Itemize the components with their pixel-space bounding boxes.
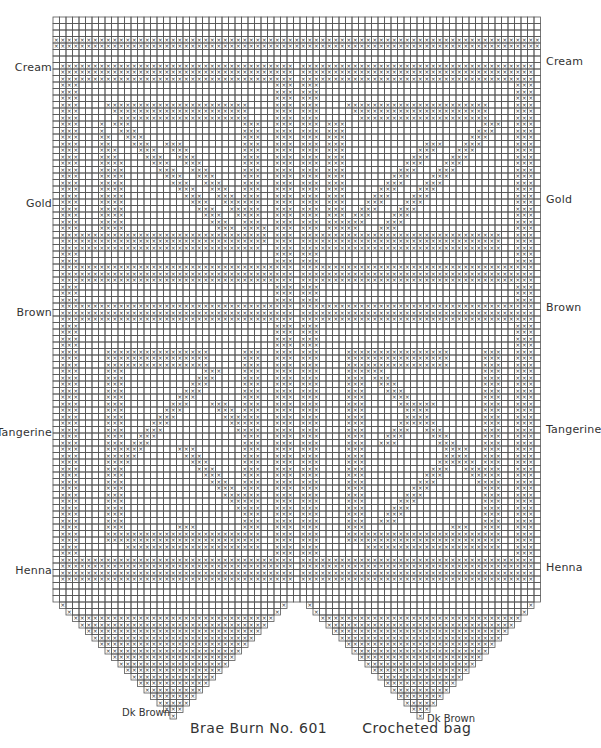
svg-text:×: × — [177, 705, 182, 712]
svg-text:×: × — [229, 653, 234, 660]
svg-text:×: × — [132, 75, 137, 82]
svg-text:×: × — [418, 575, 423, 582]
svg-text:×: × — [236, 276, 241, 283]
svg-text:×: × — [398, 432, 403, 439]
svg-text:×: × — [372, 315, 377, 322]
svg-text:×: × — [184, 159, 189, 166]
svg-text:×: × — [242, 75, 247, 82]
svg-text:×: × — [171, 361, 176, 368]
svg-text:×: × — [158, 426, 163, 433]
svg-text:×: × — [392, 543, 397, 550]
svg-text:×: × — [411, 276, 416, 283]
svg-text:×: × — [470, 276, 475, 283]
svg-text:×: × — [496, 315, 501, 322]
svg-text:×: × — [340, 244, 345, 251]
svg-text:×: × — [93, 276, 98, 283]
svg-text:×: × — [203, 114, 208, 121]
svg-text:×: × — [216, 114, 221, 121]
svg-text:×: × — [210, 218, 215, 225]
svg-text:×: × — [99, 42, 104, 49]
svg-text:×: × — [138, 42, 143, 49]
svg-text:×: × — [470, 75, 475, 82]
svg-text:×: × — [424, 75, 429, 82]
svg-text:×: × — [249, 42, 254, 49]
svg-text:×: × — [489, 276, 494, 283]
svg-text:×: × — [145, 361, 150, 368]
svg-text:×: × — [307, 575, 312, 582]
svg-text:×: × — [80, 575, 85, 582]
svg-text:×: × — [450, 42, 455, 49]
svg-text:×: × — [177, 75, 182, 82]
svg-text:×: × — [483, 133, 488, 140]
svg-text:×: × — [418, 276, 423, 283]
svg-text:×: × — [392, 42, 397, 49]
svg-text:×: × — [418, 315, 423, 322]
svg-text:×: × — [262, 75, 267, 82]
svg-text:×: × — [236, 315, 241, 322]
svg-text:×: × — [73, 575, 78, 582]
svg-text:×: × — [424, 114, 429, 121]
svg-text:×: × — [216, 42, 221, 49]
svg-text:×: × — [112, 575, 117, 582]
svg-text:×: × — [502, 42, 507, 49]
svg-text:×: × — [359, 42, 364, 49]
svg-text:×: × — [346, 276, 351, 283]
svg-text:×: × — [138, 146, 143, 153]
svg-text:×: × — [463, 114, 468, 121]
svg-text:×: × — [197, 315, 202, 322]
svg-text:×: × — [379, 42, 384, 49]
svg-text:×: × — [119, 244, 124, 251]
svg-text:×: × — [216, 276, 221, 283]
svg-text:×: × — [379, 198, 384, 205]
svg-text:×: × — [346, 536, 351, 543]
svg-text:×: × — [301, 575, 306, 582]
svg-text:×: × — [86, 75, 91, 82]
svg-text:×: × — [294, 42, 299, 49]
svg-text:×: × — [418, 198, 423, 205]
svg-text:×: × — [164, 575, 169, 582]
svg-text:×: × — [184, 244, 189, 251]
svg-text:×: × — [457, 575, 462, 582]
svg-text:×: × — [158, 575, 163, 582]
svg-text:×: × — [197, 465, 202, 472]
svg-text:×: × — [405, 211, 410, 218]
svg-text:×: × — [424, 42, 429, 49]
svg-text:×: × — [463, 153, 468, 160]
svg-text:×: × — [86, 42, 91, 49]
svg-text:×: × — [372, 205, 377, 212]
svg-text:×: × — [340, 634, 345, 641]
svg-text:×: × — [483, 276, 488, 283]
svg-text:×: × — [197, 205, 202, 212]
svg-text:×: × — [418, 114, 423, 121]
svg-text:×: × — [184, 452, 189, 459]
svg-text:×: × — [106, 101, 111, 108]
svg-text:×: × — [223, 543, 228, 550]
svg-text:×: × — [476, 244, 481, 251]
svg-text:×: × — [379, 380, 384, 387]
svg-text:×: × — [184, 315, 189, 322]
svg-text:×: × — [138, 543, 143, 550]
svg-text:×: × — [320, 315, 325, 322]
svg-text:×: × — [112, 42, 117, 49]
svg-text:×: × — [515, 575, 520, 582]
svg-text:×: × — [359, 218, 364, 225]
color-label-tangerine: Tangerine — [0, 426, 52, 439]
svg-text:×: × — [158, 315, 163, 322]
svg-text:×: × — [411, 114, 416, 121]
svg-text:×: × — [457, 276, 462, 283]
svg-text:×: × — [60, 575, 65, 582]
svg-text:×: × — [203, 42, 208, 49]
svg-text:×: × — [353, 107, 358, 114]
svg-text:×: × — [158, 75, 163, 82]
svg-text:×: × — [405, 75, 410, 82]
svg-text:×: × — [197, 575, 202, 582]
pattern-name: Brae Burn No. 601 — [190, 720, 327, 736]
svg-text:×: × — [366, 211, 371, 218]
svg-text:×: × — [379, 517, 384, 524]
svg-text:×: × — [86, 244, 91, 251]
svg-text:×: × — [268, 315, 273, 322]
svg-text:×: × — [249, 244, 254, 251]
svg-text:×: × — [112, 653, 117, 660]
svg-text:×: × — [470, 660, 475, 667]
svg-text:×: × — [437, 543, 442, 550]
